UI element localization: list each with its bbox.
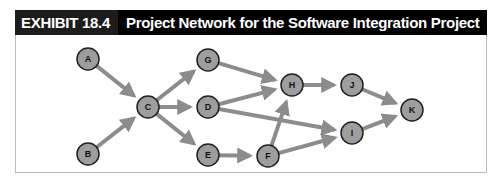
edge-c-e: [157, 114, 194, 144]
edge-f-h: [272, 102, 287, 146]
node-i: I: [341, 122, 363, 144]
node-label: I: [351, 128, 354, 138]
project-network-diagram: ABCGDEHJFIK: [0, 0, 495, 184]
node-j: J: [341, 74, 363, 96]
node-label: J: [349, 80, 354, 90]
node-a: A: [77, 48, 99, 70]
node-k: K: [401, 99, 423, 121]
edge-j-k: [362, 89, 395, 103]
node-h: H: [281, 74, 303, 96]
edge-d-h: [219, 90, 275, 105]
nodes-layer: ABCGDEHJFIK: [77, 48, 423, 167]
edge-b-c: [97, 118, 134, 147]
node-label: E: [205, 150, 211, 160]
node-label: A: [85, 54, 92, 64]
node-d: D: [197, 96, 219, 118]
edge-c-g: [157, 71, 194, 100]
edge-g-h: [219, 63, 275, 80]
node-label: G: [204, 55, 211, 65]
edge-e-f: [219, 155, 250, 156]
edge-f-i: [279, 138, 335, 153]
node-g: G: [197, 49, 219, 71]
node-f: F: [257, 145, 279, 167]
node-label: D: [205, 102, 212, 112]
node-label: K: [409, 105, 416, 115]
edge-i-k: [362, 116, 395, 129]
edge-a-c: [97, 66, 134, 96]
node-label: B: [85, 149, 92, 159]
node-c: C: [137, 96, 159, 118]
node-e: E: [197, 144, 219, 166]
node-label: H: [289, 80, 296, 90]
node-b: B: [77, 143, 99, 165]
node-label: F: [265, 151, 271, 161]
node-label: C: [145, 102, 152, 112]
